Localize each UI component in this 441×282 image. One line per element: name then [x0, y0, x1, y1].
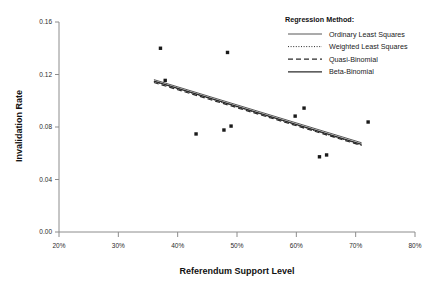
legend: Regression Method: Ordinary Least Square…	[285, 15, 408, 76]
x-tick-label: 30%	[112, 242, 125, 249]
scatter-point	[229, 124, 232, 127]
y-tick-label: 0.00	[39, 228, 52, 235]
plot-area: 0.000.040.080.120.16 20%30%40%50%60%70%8…	[0, 0, 441, 282]
legend-label: Quasi-Binomial	[329, 55, 378, 64]
x-tick-label: 20%	[52, 242, 65, 249]
scatter-point	[302, 106, 305, 109]
scatter-point	[366, 120, 369, 123]
regression-line	[154, 80, 362, 143]
y-tick-label: 0.04	[39, 176, 52, 183]
y-tick-label: 0.08	[39, 123, 52, 130]
axes	[59, 22, 415, 232]
regression-scatter-chart: 0.000.040.080.120.16 20%30%40%50%60%70%8…	[0, 0, 441, 282]
scatter-point	[318, 155, 321, 158]
scatter-point	[222, 128, 225, 131]
scatter-point	[325, 153, 328, 156]
x-axis-ticks: 20%30%40%50%60%70%80%	[52, 232, 421, 249]
legend-label: Ordinary Least Squares	[329, 30, 405, 39]
scatter-point	[164, 79, 167, 82]
x-tick-label: 80%	[408, 242, 421, 249]
scatter-point	[159, 47, 162, 50]
x-axis-title: Referendum Support Level	[179, 266, 294, 276]
y-tick-label: 0.12	[39, 71, 52, 78]
legend-title: Regression Method:	[285, 15, 354, 24]
regression-line	[154, 81, 362, 144]
y-tick-label: 0.16	[39, 18, 52, 25]
y-axis-ticks: 0.000.040.080.120.16	[39, 18, 59, 235]
y-axis-title: Invalidation Rate	[14, 90, 24, 162]
legend-entries: Ordinary Least SquaresWeighted Least Squ…	[288, 30, 408, 77]
x-tick-label: 60%	[290, 242, 303, 249]
scatter-point	[293, 114, 296, 117]
x-tick-label: 40%	[171, 242, 184, 249]
regression-lines	[154, 80, 362, 146]
regression-line	[154, 83, 362, 146]
scatter-point	[226, 51, 229, 54]
x-tick-label: 70%	[349, 242, 362, 249]
legend-label: Weighted Least Squares	[329, 42, 408, 51]
legend-label: Beta-Binomial	[329, 67, 374, 76]
scatter-point	[194, 132, 197, 135]
x-tick-label: 50%	[230, 242, 243, 249]
